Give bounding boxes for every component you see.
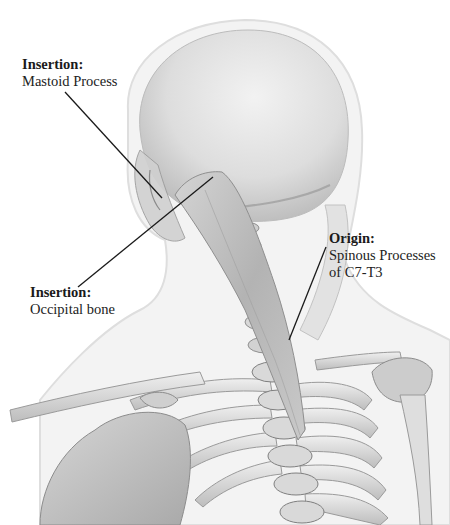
label-origin: Origin: Spinous Processes of C7-T3 bbox=[329, 230, 436, 281]
label-text: Spinous Processes bbox=[329, 247, 436, 264]
label-colon: : bbox=[78, 56, 83, 72]
label-insertion-occipital: Insertion: Occipital bone bbox=[30, 284, 115, 318]
label-text: Mastoid Process bbox=[22, 73, 117, 90]
label-title: Origin bbox=[329, 230, 370, 246]
label-title: Insertion bbox=[30, 284, 86, 300]
label-insertion-mastoid: Insertion: Mastoid Process bbox=[22, 56, 117, 90]
label-colon: : bbox=[86, 284, 91, 300]
label-colon: : bbox=[370, 230, 375, 246]
label-text: of C7-T3 bbox=[329, 264, 436, 281]
anatomy-figure: Insertion: Mastoid Process Insertion: Oc… bbox=[0, 0, 450, 525]
label-title: Insertion bbox=[22, 56, 78, 72]
label-text: Occipital bone bbox=[30, 301, 115, 318]
